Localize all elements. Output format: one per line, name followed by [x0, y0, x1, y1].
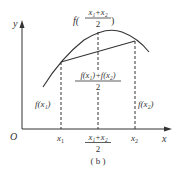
y-axis-arrow-icon	[20, 20, 25, 28]
label-average-denominator: 2	[96, 82, 101, 92]
origin-label: O	[10, 131, 17, 142]
y-axis-label: y	[12, 18, 18, 29]
figure-caption: ( b )	[91, 156, 106, 166]
tick-x2: x2	[130, 133, 138, 144]
tick-mid-numerator: x₁+x₂	[87, 132, 107, 142]
label-f-x1: f(x₁)	[35, 99, 51, 109]
convex-function-diagram: y x O x1 x₁+x₂ 2 x2 f(x₁) f(x₂) f( x₁+x₂…	[0, 0, 181, 177]
label-f-x2: f(x₂)	[138, 99, 154, 109]
tick-x1: x1	[56, 133, 64, 144]
x-axis-arrow-icon	[164, 127, 172, 132]
label-f-mid-prefix: f(	[73, 15, 80, 27]
label-average-numerator: f(x₁)+f(x₂)	[80, 70, 115, 80]
label-f-mid-denominator: 2	[96, 19, 101, 29]
tick-mid-denominator: 2	[96, 144, 101, 154]
label-f-mid-numerator: x₁+x₂	[87, 7, 107, 17]
x-axis-label: x	[161, 133, 167, 144]
label-f-mid-suffix: )	[111, 15, 114, 27]
